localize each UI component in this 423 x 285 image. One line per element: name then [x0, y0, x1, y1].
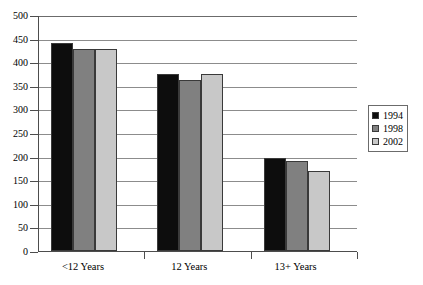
- chart-legend: 199419982002: [368, 105, 408, 152]
- gridline: [39, 16, 357, 17]
- x-axis-label: 12 Years: [171, 261, 207, 273]
- y-axis-tick: [30, 87, 38, 88]
- bar-2002-12-Years: [95, 49, 117, 251]
- y-axis-tick: [30, 40, 38, 41]
- plot-area: [38, 16, 357, 252]
- y-axis-label: 500: [0, 11, 28, 21]
- y-axis-label: 150: [0, 176, 28, 186]
- bar-1998-13-Years: [286, 161, 308, 251]
- y-axis-label: 0: [0, 247, 28, 257]
- legend-swatch-icon: [372, 112, 379, 119]
- y-axis-tick: [30, 181, 38, 182]
- legend-label: 1994: [383, 111, 403, 121]
- legend-swatch-icon: [372, 138, 379, 145]
- bar-2002-12-Years: [201, 74, 223, 251]
- bar-1994-13-Years: [264, 158, 286, 251]
- y-axis-tick: [30, 16, 38, 17]
- legend-swatch-icon: [372, 125, 379, 132]
- bar-chart: 050100150200250300350400450500 <12 Years…: [0, 0, 423, 285]
- x-axis-tick: [357, 252, 358, 259]
- y-axis-label: 50: [0, 223, 28, 233]
- legend-label: 1998: [383, 124, 403, 134]
- bar-1994-12-Years: [51, 43, 73, 251]
- bar-1998-12-Years: [179, 80, 201, 251]
- y-axis-label: 300: [0, 105, 28, 115]
- y-axis-label: 350: [0, 82, 28, 92]
- gridline: [39, 40, 357, 41]
- x-axis-label: <12 Years: [62, 261, 104, 273]
- y-axis-label: 200: [0, 153, 28, 163]
- y-axis-tick: [30, 158, 38, 159]
- y-axis-tick: [30, 134, 38, 135]
- x-axis-tick: [144, 252, 145, 259]
- y-axis-tick: [30, 205, 38, 206]
- y-axis-tick: [30, 228, 38, 229]
- y-axis-tick: [30, 110, 38, 111]
- legend-item-2002[interactable]: 2002: [372, 135, 403, 148]
- y-axis-label: 400: [0, 58, 28, 68]
- y-axis-tick: [30, 252, 38, 253]
- y-axis-label: 450: [0, 35, 28, 45]
- legend-label: 2002: [383, 137, 403, 147]
- bar-1994-12-Years: [157, 74, 179, 251]
- y-axis-label: 100: [0, 200, 28, 210]
- bar-1998-12-Years: [73, 49, 95, 251]
- x-axis-tick: [251, 252, 252, 259]
- y-axis-tick: [30, 63, 38, 64]
- legend-item-1998[interactable]: 1998: [372, 122, 403, 135]
- legend-item-1994[interactable]: 1994: [372, 109, 403, 122]
- bar-2002-13-Years: [308, 171, 330, 251]
- x-axis-label: 13+ Years: [275, 261, 317, 273]
- y-axis-label: 250: [0, 129, 28, 139]
